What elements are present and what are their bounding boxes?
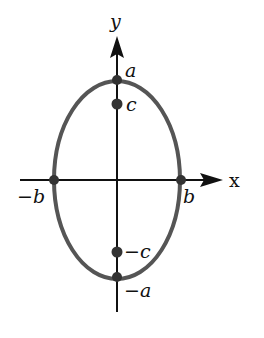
- label-top-vertex: a: [125, 59, 136, 81]
- label-right-covertex: b: [183, 185, 195, 207]
- point-top-vertex: [112, 75, 122, 85]
- label-bottom-focus: −c: [124, 240, 151, 262]
- point-bottom-vertex: [112, 272, 122, 282]
- y-axis-label: y: [109, 10, 121, 32]
- ellipse-diagram: y x a c b −b −c −a: [0, 0, 264, 338]
- point-right-covertex: [176, 175, 186, 185]
- point-left-covertex: [49, 175, 59, 185]
- point-top-focus: [112, 99, 123, 110]
- label-top-focus: c: [126, 93, 137, 115]
- label-left-covertex: −b: [17, 185, 45, 207]
- point-bottom-focus: [112, 247, 123, 258]
- label-bottom-vertex: −a: [124, 279, 151, 301]
- x-axis-label: x: [229, 169, 240, 191]
